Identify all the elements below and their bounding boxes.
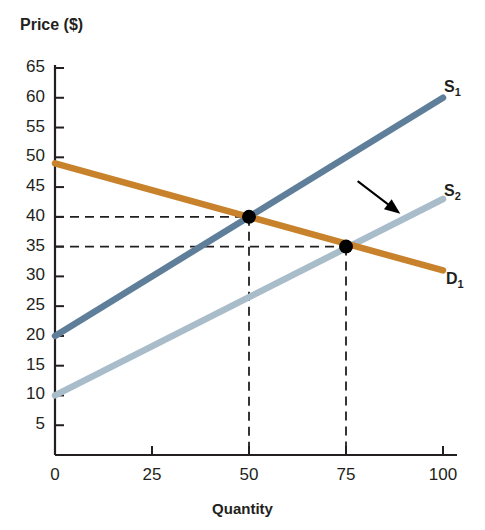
x-tick-label: 25 xyxy=(127,465,177,485)
y-tick-label: 40 xyxy=(5,206,45,226)
x-tick-label: 75 xyxy=(321,465,371,485)
curve-label-d1: D1 xyxy=(446,270,464,290)
y-tick-label: 25 xyxy=(5,295,45,315)
y-tick-label: 30 xyxy=(5,265,45,285)
shift-arrow-head xyxy=(384,199,400,214)
x-tick-label: 0 xyxy=(30,465,80,485)
y-tick-label: 5 xyxy=(5,414,45,434)
supply-demand-chart: Price ($) Quantity S1 S2 D1 510152025303… xyxy=(0,0,485,530)
equilibrium-point-2 xyxy=(339,240,353,254)
y-tick-label: 55 xyxy=(5,117,45,137)
y-tick-label: 45 xyxy=(5,176,45,196)
y-tick-label: 35 xyxy=(5,236,45,256)
x-axis-title: Quantity xyxy=(0,500,485,517)
chart-svg xyxy=(0,0,485,530)
y-tick-label: 20 xyxy=(5,325,45,345)
x-tick-label: 100 xyxy=(418,465,468,485)
x-tick-label: 50 xyxy=(224,465,274,485)
y-tick-label: 65 xyxy=(5,57,45,77)
y-tick-label: 60 xyxy=(5,87,45,107)
y-tick-label: 15 xyxy=(5,355,45,375)
y-tick-label: 10 xyxy=(5,384,45,404)
equilibrium-point-1 xyxy=(242,210,256,224)
curve-label-s1: S1 xyxy=(444,78,461,98)
y-tick-label: 50 xyxy=(5,146,45,166)
curve-label-s2: S2 xyxy=(444,182,461,202)
